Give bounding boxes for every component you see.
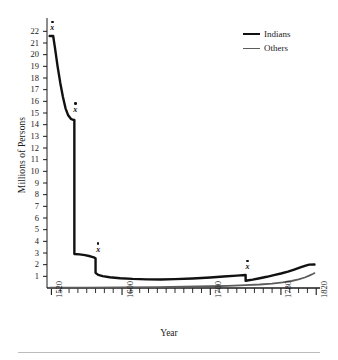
figure-bottom-rule xyxy=(18,352,320,353)
data-point-marker: x xyxy=(70,102,80,114)
y-tick-label: 3 xyxy=(17,249,39,258)
y-tick-label: 15 xyxy=(17,109,39,118)
legend-label-indians: Indians xyxy=(264,30,291,39)
y-tick-label: 5 xyxy=(17,225,39,234)
x-tick-label: 1520 xyxy=(55,281,64,298)
legend-item-others: Others xyxy=(243,42,335,54)
x-axis-title: Year xyxy=(0,328,338,338)
series-line-indians xyxy=(50,36,315,281)
x-tick-label: 1600 xyxy=(126,281,135,298)
data-point-marker: x xyxy=(242,260,252,272)
x-tick-label: 1700 xyxy=(214,281,223,298)
data-point-marker: x xyxy=(93,242,103,254)
y-tick-label: 14 xyxy=(17,120,39,129)
y-tick-label: 6 xyxy=(17,214,39,223)
y-tick-label: 20 xyxy=(17,50,39,59)
chart-figure: Millions of Persons 12345678910111213141… xyxy=(0,0,338,360)
data-series-layer xyxy=(50,36,315,288)
marker-label: x xyxy=(47,24,57,32)
marker-label: x xyxy=(242,263,252,271)
y-tick-label: 12 xyxy=(17,144,39,153)
y-tick-label: 16 xyxy=(17,97,39,106)
chart-legend: Indians Others xyxy=(243,28,335,56)
legend-item-indians: Indians xyxy=(243,28,335,40)
y-tick-label: 11 xyxy=(17,155,39,164)
data-point-marker: x xyxy=(47,21,57,33)
y-tick-label: 7 xyxy=(17,202,39,211)
y-tick-label: 21 xyxy=(17,39,39,48)
y-tick-label: 22 xyxy=(17,27,39,36)
marker-label: x xyxy=(93,246,103,254)
y-tick-label: 2 xyxy=(17,260,39,269)
x-tick-label: 1780 xyxy=(284,281,293,298)
marker-label: x xyxy=(70,106,80,114)
axis-lines xyxy=(47,18,320,288)
x-tick-label: 1820 xyxy=(320,281,329,298)
y-tick-label: 18 xyxy=(17,74,39,83)
y-tick-label: 9 xyxy=(17,179,39,188)
legend-label-others: Others xyxy=(264,44,288,53)
legend-swatch-others-icon xyxy=(243,48,260,49)
y-tick-label: 1 xyxy=(17,272,39,281)
y-tick-label: 8 xyxy=(17,190,39,199)
legend-swatch-indians-icon xyxy=(243,33,260,35)
y-tick-label: 4 xyxy=(17,237,39,246)
y-tick-label: 19 xyxy=(17,62,39,71)
y-tick-label: 10 xyxy=(17,167,39,176)
y-tick-label: 13 xyxy=(17,132,39,141)
y-tick-label: 17 xyxy=(17,85,39,94)
